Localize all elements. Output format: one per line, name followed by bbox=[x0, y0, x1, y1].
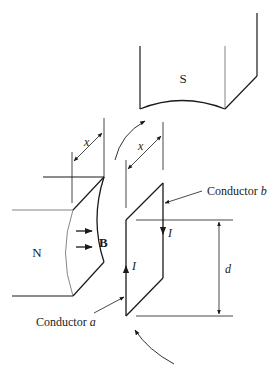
gap-left-label: x bbox=[83, 135, 90, 149]
loop-height-dimension bbox=[136, 220, 233, 316]
loop-magnet-diagram: S N B x x I I bbox=[0, 0, 280, 374]
conductor-a-leader-icon bbox=[94, 297, 124, 313]
current-label-b: I bbox=[167, 226, 173, 240]
south-pole-label: S bbox=[179, 71, 186, 86]
conductor-b-label: Conductor b bbox=[207, 184, 267, 198]
current-label-a: I bbox=[131, 259, 137, 273]
gap-right-dimension bbox=[126, 122, 163, 208]
conductor-b-leader-icon bbox=[165, 191, 202, 203]
gap-left-dimension bbox=[72, 118, 104, 203]
north-pole-magnet bbox=[12, 177, 104, 296]
rotation-arrow-bottom-icon bbox=[135, 330, 174, 364]
conductor-a-label: Conductor a bbox=[36, 315, 96, 329]
south-pole-magnet bbox=[140, 13, 257, 109]
north-pole-label: N bbox=[32, 245, 42, 260]
conductor-loop bbox=[126, 183, 163, 316]
field-label: B bbox=[99, 235, 108, 250]
magnetic-field-arrows bbox=[76, 231, 92, 247]
gap-right-label: x bbox=[137, 139, 144, 153]
loop-height-label: d bbox=[225, 262, 232, 276]
